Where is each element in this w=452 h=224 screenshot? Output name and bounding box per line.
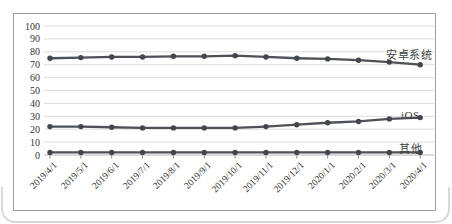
series-label-android: 安卓系统 — [386, 46, 432, 62]
y-axis-tick-label: 90 — [0, 33, 40, 44]
y-axis-tick-label: 100 — [0, 21, 40, 32]
series-label-other: 其他 — [399, 140, 422, 156]
y-axis-tick-label: 30 — [0, 111, 40, 122]
y-axis-tick-label: 60 — [0, 72, 40, 83]
y-axis-tick-label: 70 — [0, 59, 40, 70]
y-axis-tick-label: 0 — [0, 150, 40, 161]
y-axis-tick-label: 80 — [0, 46, 40, 57]
y-axis-tick-label: 20 — [0, 124, 40, 135]
series-label-ios: iOS — [401, 109, 420, 121]
y-axis-tick-label: 50 — [0, 85, 40, 96]
y-axis-tick-label: 10 — [0, 137, 40, 148]
y-axis-tick-label: 40 — [0, 98, 40, 109]
